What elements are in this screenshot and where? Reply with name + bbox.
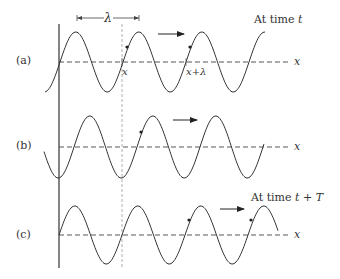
axis-label-c: x xyxy=(294,228,301,241)
point-x xyxy=(125,45,128,48)
panel-c-label: (c) xyxy=(16,228,31,241)
panel-c: (c) x At time t + T xyxy=(16,191,325,264)
axis-label-a: x xyxy=(294,55,301,68)
panel-b-label: (b) xyxy=(16,139,32,152)
point-b xyxy=(139,130,142,133)
caption-a: At time t xyxy=(253,13,303,26)
point-c-2 xyxy=(249,218,252,221)
axis-label-b: x xyxy=(294,140,301,153)
wavelength-label: λ xyxy=(103,11,112,25)
point-label-x: x xyxy=(122,66,128,77)
caption-c: At time t + T xyxy=(250,191,325,204)
wave-diagram: λ (a) x x x+λ At time t (b) x (c) x At t… xyxy=(0,0,340,279)
panel-a-label: (a) xyxy=(16,54,31,67)
point-label-x-plus-lambda: x+λ xyxy=(186,66,206,77)
point-x-plus-lambda xyxy=(188,45,191,48)
point-c-1 xyxy=(187,218,190,221)
wavelength-bracket: λ xyxy=(77,11,139,25)
